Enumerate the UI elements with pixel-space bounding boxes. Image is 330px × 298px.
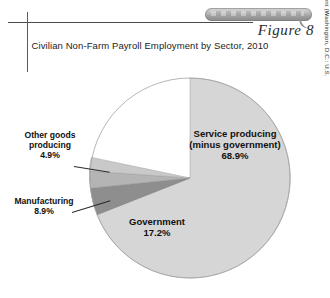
pie-label-manufacturing: Manufacturing 8.9%: [2, 196, 86, 216]
pie-label-government: Government 17.2%: [106, 216, 208, 238]
chart-title: Civilian Non-Farm Payroll Employment by …: [0, 40, 300, 51]
pie-label-government-name: Government: [129, 216, 185, 227]
pie-label-manufacturing-percent: 8.9%: [34, 206, 54, 216]
pie-label-service-percent: 68.9%: [168, 150, 302, 161]
figure-label: Figure 8: [232, 22, 314, 39]
pie-label-service-line1: Service producing: [194, 128, 277, 139]
pie-label-other-goods-percent: 4.9%: [40, 150, 60, 160]
pie-label-service-line2: (minus government): [189, 139, 280, 150]
pie-label-manufacturing-name: Manufacturing: [14, 196, 73, 206]
pie-chart: [89, 77, 291, 279]
figure-tab-ornament-icon: [205, 8, 312, 21]
pie-label-other-goods: Other goods producing 4.9%: [8, 130, 92, 160]
pie-chart-svg: [89, 77, 291, 279]
source-note-text: SOURCE: Economic Report of the President…: [313, 0, 330, 78]
pie-label-service: Service producing (minus government) 68.…: [168, 128, 302, 162]
header-rule: [8, 22, 253, 23]
pie-label-government-percent: 17.2%: [144, 227, 171, 238]
source-note: SOURCE: Economic Report of the President…: [313, 0, 330, 86]
pie-label-other-goods-line1: Other goods: [24, 130, 75, 140]
pie-label-other-goods-line2: producing: [29, 140, 71, 150]
